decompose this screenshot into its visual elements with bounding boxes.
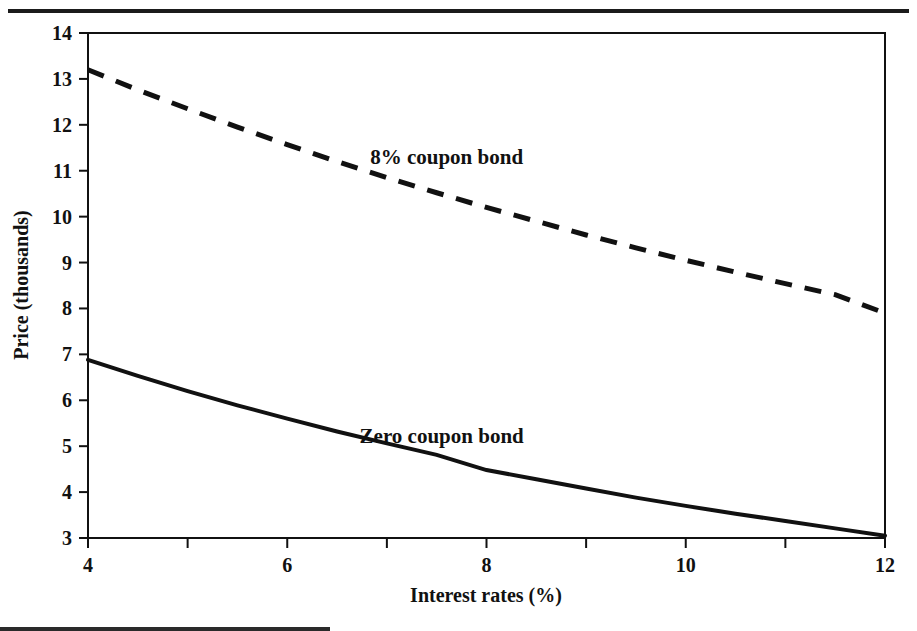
zero-coupon-bond-label: Zero coupon bond — [360, 424, 524, 448]
chart-plot: 34567891011121314 4681012 8% coupon bond… — [0, 0, 917, 631]
y-tick-label: 9 — [62, 252, 72, 274]
x-tick-label: 12 — [875, 554, 895, 576]
x-axis-tick-labels: 4681012 — [83, 554, 895, 576]
y-tick-label: 8 — [62, 297, 72, 319]
plot-area-border — [88, 33, 885, 538]
x-axis-title: Interest rates (%) — [410, 584, 562, 607]
bottom-horizontal-rule — [0, 627, 330, 631]
y-axis-ticks — [79, 33, 88, 538]
y-axis-tick-labels: 34567891011121314 — [52, 22, 72, 549]
y-axis-title: Price (thousands) — [10, 210, 33, 359]
y-tick-label: 7 — [62, 343, 72, 365]
x-tick-label: 6 — [282, 554, 292, 576]
y-tick-label: 12 — [52, 114, 72, 136]
y-tick-label: 13 — [52, 68, 72, 90]
y-tick-label: 3 — [62, 527, 72, 549]
y-tick-label: 10 — [52, 206, 72, 228]
y-tick-label: 5 — [62, 435, 72, 457]
figure-container: 34567891011121314 4681012 8% coupon bond… — [0, 0, 917, 631]
x-tick-label: 4 — [83, 554, 93, 576]
y-tick-label: 6 — [62, 389, 72, 411]
x-axis-ticks — [88, 538, 885, 548]
coupon-bond-line — [88, 70, 885, 313]
y-tick-label: 11 — [53, 160, 72, 182]
y-tick-label: 4 — [62, 481, 72, 503]
x-tick-label: 10 — [676, 554, 696, 576]
coupon-bond-label: 8% coupon bond — [370, 145, 523, 169]
x-tick-label: 8 — [482, 554, 492, 576]
y-tick-label: 14 — [52, 22, 72, 44]
